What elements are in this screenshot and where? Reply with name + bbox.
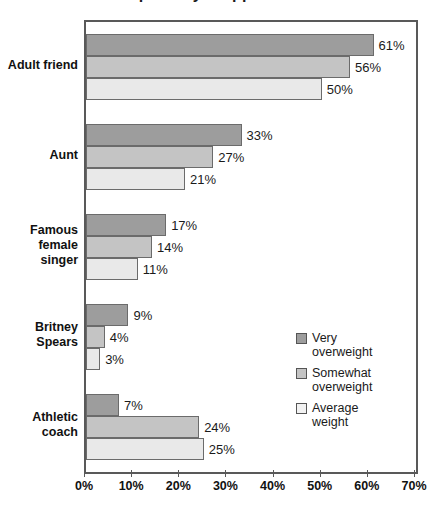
bar-group: 33%27%21% [86,112,416,202]
x-axis-tick [320,470,321,477]
bar-value-label: 61% [374,38,405,53]
legend-swatch [296,403,307,414]
bar [86,258,138,280]
bar-chart: partially cropped title 61%56%50%33%27%2… [0,0,444,514]
x-axis-tick-label: 60% [354,479,379,493]
category-label: Adult friend [0,58,78,73]
category-label: Aunt [0,148,78,163]
legend-swatch [296,333,307,344]
bar-row: 21% [86,168,416,190]
bar-row: 33% [86,124,416,146]
bar-value-label: 17% [166,218,197,233]
bar-value-label: 27% [213,150,244,165]
bar-row: 27% [86,146,416,168]
bar-row: 50% [86,78,416,100]
bar-value-label: 9% [128,308,152,323]
bar [86,348,100,370]
bar-row: 14% [86,236,416,258]
x-axis-tick [414,470,415,477]
legend-label: Somewhat overweight [312,366,372,394]
bar-value-label: 11% [138,262,168,277]
bar [86,146,213,168]
x-axis-tick-label: 70% [401,479,426,493]
category-label: Athletic coach [0,410,78,440]
x-axis-tick [225,470,226,477]
bar [86,438,204,460]
legend-item: Very overweight [296,331,408,359]
x-axis-tick [84,470,85,477]
bar [86,78,322,100]
bar-value-label: 50% [322,82,353,97]
chart-title-cropped: partially cropped title [0,0,444,14]
bar [86,168,185,190]
bar-group: 61%56%50% [86,22,416,112]
bar-value-label: 25% [204,442,235,457]
bar-row: 61% [86,34,416,56]
bar [86,124,242,146]
bar [86,416,199,438]
bar [86,304,128,326]
bar [86,326,105,348]
x-axis-tick-label: 20% [166,479,191,493]
bar-value-label: 14% [152,240,183,255]
x-axis-tick-label: 0% [75,479,93,493]
category-label: Famous female singer [0,223,78,268]
bar-value-label: 3% [100,352,124,367]
bar-group: 17%14%11% [86,202,416,292]
x-axis-tick-label: 50% [307,479,332,493]
bar [86,236,152,258]
x-axis-tick-label: 10% [119,479,144,493]
bar-row: 17% [86,214,416,236]
bar-value-label: 4% [105,330,129,345]
bar-value-label: 21% [185,172,216,187]
legend-label: Very overweight [312,331,372,359]
bar [86,394,119,416]
bar-row: 11% [86,258,416,280]
bar [86,56,350,78]
bar-value-label: 7% [119,398,143,413]
x-axis-tick-label: 30% [213,479,238,493]
legend-item: Average weight [296,401,408,429]
x-axis-tick [273,470,274,477]
x-axis-tick [131,470,132,477]
bar-row: 25% [86,438,416,460]
chart-title-text: partially cropped title [139,0,305,3]
x-axis-tick-label: 40% [260,479,285,493]
legend-label: Average weight [312,401,358,429]
bar-value-label: 33% [242,128,273,143]
bar-value-label: 24% [199,420,230,435]
bar-row: 9% [86,304,416,326]
category-label: Britney Spears [0,320,78,350]
bar-value-label: 56% [350,60,381,75]
bar [86,34,374,56]
x-axis-tick [178,470,179,477]
legend-item: Somewhat overweight [296,366,408,394]
x-axis-tick [367,470,368,477]
legend-swatch [296,368,307,379]
chart-legend: Very overweightSomewhat overweightAverag… [296,331,408,436]
bar-row: 56% [86,56,416,78]
bar [86,214,166,236]
